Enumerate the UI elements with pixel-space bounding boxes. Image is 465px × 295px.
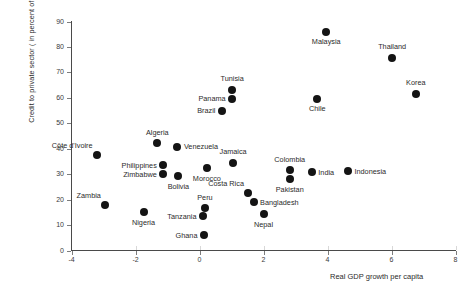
x-tick-mark bbox=[200, 251, 201, 255]
y-tick-label: 10 bbox=[24, 221, 64, 228]
x-axis-title: Real GDP growth per capita bbox=[330, 272, 423, 281]
x-tick-label: 0 bbox=[185, 256, 215, 263]
data-point bbox=[153, 139, 161, 147]
data-point bbox=[344, 167, 352, 175]
data-point-label: Nigeria bbox=[132, 219, 155, 227]
data-point bbox=[159, 161, 167, 169]
data-point bbox=[250, 198, 258, 206]
data-point bbox=[203, 164, 211, 172]
data-point bbox=[199, 212, 207, 220]
x-tick-label: 8 bbox=[441, 256, 465, 263]
data-point bbox=[286, 166, 294, 174]
x-gridline-stub bbox=[328, 246, 329, 250]
y-tick-label: 20 bbox=[24, 196, 64, 203]
data-point bbox=[412, 90, 420, 98]
y-tick-label: 0 bbox=[24, 247, 64, 254]
data-point-label: Colombia bbox=[274, 156, 305, 164]
data-point bbox=[174, 172, 182, 180]
data-point bbox=[229, 159, 237, 167]
data-point-label: Thailand bbox=[378, 43, 406, 51]
data-point-label: Peru bbox=[197, 194, 212, 202]
x-tick-mark bbox=[328, 251, 329, 255]
data-point-label: Indonesia bbox=[354, 168, 386, 176]
data-point bbox=[313, 95, 321, 103]
data-point bbox=[244, 189, 252, 197]
data-point bbox=[101, 201, 109, 209]
y-tick-mark bbox=[67, 98, 71, 99]
y-tick-mark bbox=[67, 225, 71, 226]
data-point bbox=[218, 107, 226, 115]
y-axis-line bbox=[71, 21, 72, 251]
data-point-label: Jamaica bbox=[220, 148, 247, 156]
data-point-label: Malaysia bbox=[312, 38, 341, 46]
data-point-label: Tunisia bbox=[221, 75, 244, 83]
data-point-label: Korea bbox=[406, 79, 425, 87]
x-tick-mark bbox=[264, 251, 265, 255]
y-tick-mark bbox=[67, 72, 71, 73]
y-tick-mark bbox=[67, 251, 71, 252]
x-tick-label: 2 bbox=[249, 256, 279, 263]
y-tick-label: 30 bbox=[24, 170, 64, 177]
x-tick-label: 4 bbox=[313, 256, 343, 263]
data-point-label: Brazil bbox=[197, 107, 215, 115]
data-point bbox=[322, 28, 330, 36]
data-point bbox=[260, 210, 268, 218]
x-tick-mark bbox=[136, 251, 137, 255]
data-point bbox=[93, 151, 101, 159]
data-point bbox=[159, 170, 167, 178]
data-point-label: Nepal bbox=[254, 221, 273, 229]
y-tick-mark bbox=[67, 123, 71, 124]
data-point bbox=[228, 86, 236, 94]
scatter-chart: 0102030405060708090 -4-202468 MalaysiaTh… bbox=[0, 0, 465, 295]
data-point-label: Ghana bbox=[176, 232, 198, 240]
data-point-label: Panama bbox=[198, 95, 225, 103]
x-tick-mark bbox=[392, 251, 393, 255]
data-point bbox=[388, 54, 396, 62]
y-tick-mark bbox=[67, 200, 71, 201]
data-point-label: Bolivia bbox=[168, 183, 190, 191]
data-point-label: India bbox=[318, 169, 334, 177]
data-point bbox=[286, 175, 294, 183]
data-point-label: Zimbabwe bbox=[123, 171, 157, 179]
y-tick-mark bbox=[67, 22, 71, 23]
data-point bbox=[228, 95, 236, 103]
x-tick-label: -4 bbox=[57, 256, 87, 263]
data-point bbox=[308, 168, 316, 176]
x-tick-label: 6 bbox=[377, 256, 407, 263]
x-gridline-stub bbox=[392, 246, 393, 250]
x-tick-mark bbox=[72, 251, 73, 255]
data-point-label: Algeria bbox=[146, 129, 169, 137]
data-point-label: Bangladesh bbox=[260, 199, 299, 207]
x-tick-mark bbox=[456, 251, 457, 255]
y-axis-title: Credit to private sector ( in percent of… bbox=[27, 0, 36, 152]
data-point-label: Costa Rica bbox=[208, 180, 244, 188]
x-gridline-stub bbox=[200, 246, 201, 250]
data-point bbox=[173, 143, 181, 151]
x-gridline-stub bbox=[136, 246, 137, 250]
x-gridline-stub bbox=[456, 246, 457, 250]
data-point-label: Côte d'Ivoire bbox=[52, 142, 93, 150]
data-point-label: Philippines bbox=[122, 162, 157, 170]
data-point-label: Chile bbox=[309, 105, 326, 113]
data-point bbox=[201, 204, 209, 212]
x-gridline-stub bbox=[264, 246, 265, 250]
y-tick-mark bbox=[67, 174, 71, 175]
data-point-label: Tanzania bbox=[167, 213, 196, 221]
x-tick-label: -2 bbox=[121, 256, 151, 263]
data-point-label: Venezuela bbox=[184, 143, 218, 151]
data-point-label: Zambia bbox=[77, 192, 101, 200]
y-tick-mark bbox=[67, 47, 71, 48]
data-point-label: Pakistan bbox=[276, 186, 304, 194]
data-point bbox=[200, 231, 208, 239]
data-point bbox=[140, 208, 148, 216]
